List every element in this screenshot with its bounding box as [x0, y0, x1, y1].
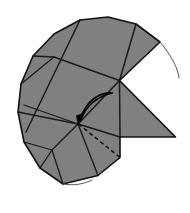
diagram-canvas — [0, 0, 190, 213]
construction-arc-upper-right-icon — [160, 42, 179, 78]
origami-diagram-svg — [0, 0, 190, 213]
crease-right-flap-edge — [120, 81, 121, 138]
